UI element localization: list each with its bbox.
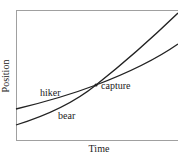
x-axis-label: Time bbox=[89, 143, 110, 153]
position-time-chart: hiker bear capture Time Position bbox=[0, 0, 178, 153]
y-axis-label: Position bbox=[0, 60, 11, 93]
bear-curve bbox=[16, 13, 178, 125]
capture-label: capture bbox=[101, 80, 131, 91]
hiker-curve bbox=[16, 44, 178, 109]
hiker-label: hiker bbox=[40, 87, 61, 98]
bear-label: bear bbox=[58, 110, 76, 121]
capture-point bbox=[94, 83, 97, 86]
